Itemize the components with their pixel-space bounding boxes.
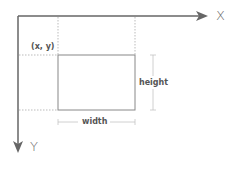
axes — [18, 16, 200, 145]
rectangle-shape — [58, 55, 135, 110]
width-label: width — [82, 118, 107, 126]
y-axis-label: Y — [30, 140, 38, 153]
height-label: height — [139, 79, 168, 87]
x-axis-label: X — [216, 9, 225, 22]
origin-label: (x, y) — [31, 43, 55, 51]
guide-lines — [19, 17, 135, 110]
